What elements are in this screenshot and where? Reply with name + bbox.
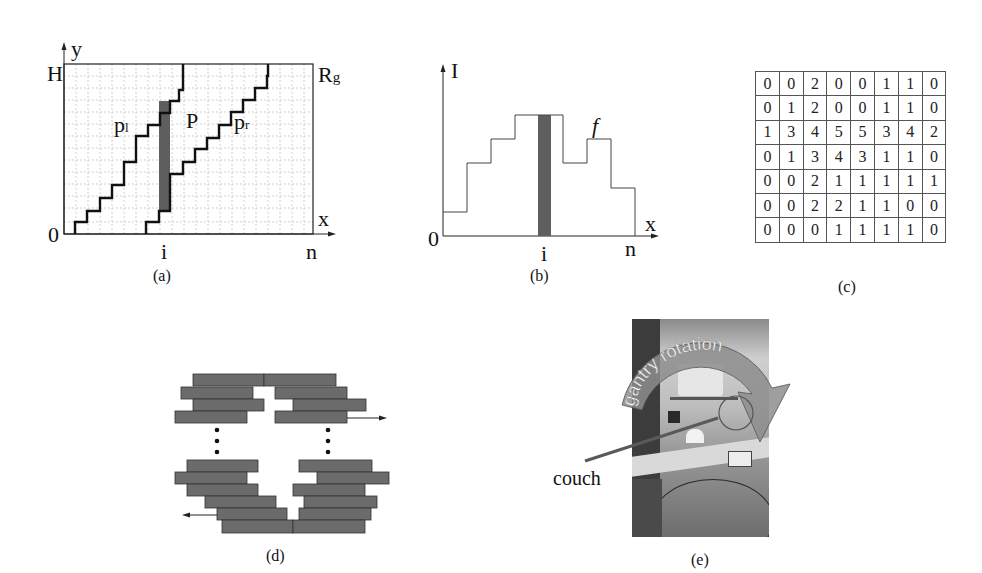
gantry-rotation-graphic: gantry rotation <box>0 0 982 573</box>
couch-label: couch <box>553 468 601 488</box>
caption-e: (e) <box>691 552 709 568</box>
couch-pointer-line <box>585 418 718 461</box>
